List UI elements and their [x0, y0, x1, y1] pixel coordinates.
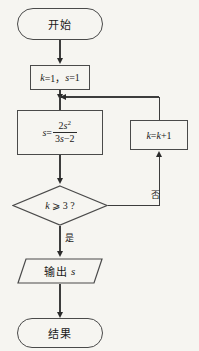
compute-den-tail: −2: [64, 133, 75, 144]
node-increment-label: k=k+1: [146, 130, 171, 141]
node-increment: k=k+1: [130, 120, 188, 150]
arrowhead-start-to-init: [57, 58, 63, 64]
node-decision-label: k ⩾ 3 ?: [12, 185, 108, 226]
compute-numerator: 2s2: [57, 121, 73, 132]
node-init: k=1，s=1: [30, 65, 90, 90]
arrowhead-compute-to-decision: [57, 178, 63, 184]
node-output: 输出 s: [17, 258, 103, 284]
node-compute: s= 2s2 3s−2: [17, 110, 103, 155]
connector-output-to-end: [59, 284, 60, 313]
node-end-label: 结果: [48, 325, 72, 341]
branch-label-yes: 是: [65, 231, 74, 244]
compute-num-exponent: 2: [67, 119, 71, 127]
node-init-label: k=1，s=1: [40, 70, 80, 85]
init-eq1: =1，: [45, 70, 66, 85]
decision-question-mark: ?: [70, 200, 74, 211]
connector-yes-to-output: [59, 226, 60, 252]
output-var: s: [71, 265, 76, 277]
branch-label-no: 否: [151, 188, 160, 201]
node-output-label: 输出 s: [17, 258, 103, 284]
init-eq2: =1: [69, 72, 80, 83]
decision-value: 3: [63, 200, 68, 211]
decision-var: k: [45, 200, 49, 211]
connector-compute-to-decision: [59, 155, 60, 179]
node-compute-label: s= 2s2 3s−2: [42, 121, 77, 144]
node-end: 结果: [17, 318, 103, 348]
arrowhead-loop-return: [60, 94, 66, 100]
flowchart-canvas: 开始 k=1，s=1 s= 2s2 3s−2 k ⩾ 3 ?: [0, 0, 199, 351]
node-start: 开始: [17, 8, 103, 40]
connector-loop-return-vertical: [159, 97, 160, 120]
compute-equals: =: [46, 127, 52, 138]
decision-comparator: ⩾: [52, 200, 60, 211]
compute-fraction: 2s2 3s−2: [53, 121, 77, 144]
compute-denominator: 3s−2: [53, 132, 77, 145]
arrowhead-no-into-increment: [156, 151, 162, 157]
connector-no-horizontal: [108, 205, 160, 206]
node-start-label: 开始: [48, 16, 72, 32]
node-decision: k ⩾ 3 ?: [12, 185, 108, 226]
connector-start-to-init: [59, 40, 60, 59]
arrowhead-yes-to-output: [57, 251, 63, 257]
connector-loop-return-horizontal: [60, 96, 159, 97]
output-text: 输出: [44, 263, 67, 279]
increment-plus-one: +1: [161, 130, 172, 141]
